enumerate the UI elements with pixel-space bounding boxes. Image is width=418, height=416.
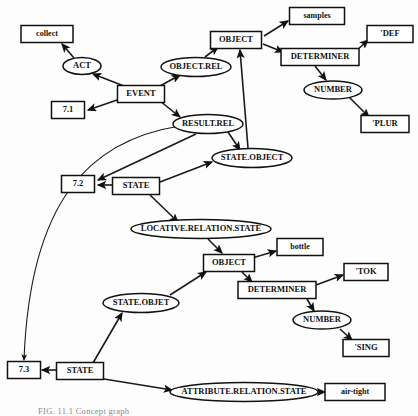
node-label-n73: 7.3 [19,364,30,374]
node-label-event: EVENT [126,88,156,98]
edge-state_bot-to-attribute [104,379,172,390]
node-def: 'DEF [367,26,413,43]
edge-state_mid-to-locative [150,195,178,222]
edge-number_top-to-plur [349,97,369,117]
node-label-n72: 7.2 [73,178,84,188]
edge-locative-to-object_bot [208,239,222,253]
node-event: EVENT [118,86,165,103]
node-label-tok: 'TOK [355,266,376,276]
node-label-samples: samples [303,11,330,20]
node-bottle: bottle [277,239,323,256]
node-label-plur: 'PLUR [372,118,398,128]
edge-act-to-collect [62,44,74,58]
nodes-layer: collectACTEVENT7.1OBJECT.RELOBJECTsample… [8,8,414,402]
node-label-state_objet: STATE.OBJET [113,297,170,307]
node-locative: LOCATIVE.RELATION.STATE [131,220,271,239]
node-label-object_rel: OBJECT.REL [170,61,223,71]
node-label-bottle: bottle [290,242,310,251]
edge-number_bot-to-sing [340,329,352,340]
node-n71: 7.1 [52,102,85,119]
node-determiner_bot: DETERMINER [238,282,316,299]
node-label-state_bot: STATE [67,365,94,375]
node-n72: 7.2 [62,176,95,193]
edge-event-to-act [93,74,124,86]
node-label-def: 'DEF [380,28,399,38]
node-object_rel: OBJECT.REL [161,58,231,77]
node-plur: 'PLUR [361,116,409,133]
edge-result_rel-to-n73 [24,126,180,360]
edge-state_bot-to-state_objet [93,313,122,363]
node-label-airtight: air-tight [341,387,369,396]
edge-state_object_1-to-object_top [240,50,248,148]
edge-object_bot-to-determiner_bot [242,272,252,282]
node-determiner_top: DETERMINER [281,49,359,66]
node-act: ACT [63,58,101,75]
node-tok: 'TOK [344,264,388,281]
edge-object_top-to-determiner_top [263,44,283,52]
node-label-object_bot: OBJECT [212,257,246,267]
node-label-sing: 'SING [354,342,378,352]
edge-event-to-result_rel [160,101,180,117]
node-state_object_1: STATE.OBJECT [212,149,292,168]
edge-determiner_bot-to-number_bot [307,299,314,311]
node-label-result_rel: RESULT.REL [182,118,235,128]
edge-object_bot-to-bottle [252,251,276,258]
node-label-attribute: ATTRIBUTE.RELATION.STATE [181,386,306,396]
node-label-determiner_bot: DETERMINER [248,284,307,294]
edge-object_top-to-samples [264,21,288,36]
node-label-act: ACT [73,60,91,70]
node-state_mid: STATE [113,178,160,195]
edge-event-to-n71 [88,99,120,110]
node-samples: samples [290,8,345,25]
edge-determiner_top-to-number_top [315,66,326,80]
edge-event-to-object_rel [160,75,180,86]
edge-state_objet-to-object_bot [170,272,206,295]
edge-determiner_bot-to-tok [316,275,343,285]
node-object_top: OBJECT [211,32,262,49]
node-label-determiner_top: DETERMINER [291,51,350,61]
node-collect: collect [21,26,73,43]
node-label-collect: collect [36,29,58,38]
node-label-number_bot: NUMBER [303,314,342,324]
figure-caption: FIG. 11.1 Concept graph [38,406,129,416]
node-label-object_top: OBJECT [219,34,253,44]
node-label-state_mid: STATE [123,180,150,190]
edge-state_mid-to-state_object_1 [160,162,212,182]
node-label-state_object_1: STATE.OBJECT [221,152,284,162]
node-number_top: NUMBER [304,81,362,99]
node-number_bot: NUMBER [293,311,351,329]
node-object_bot: OBJECT [204,255,255,272]
node-result_rel: RESULT.REL [173,115,243,134]
node-label-locative: LOCATIVE.RELATION.STATE [141,223,262,233]
node-sing: 'SING [343,340,389,357]
node-label-number_top: NUMBER [314,84,353,94]
node-airtight: air-tight [325,384,385,401]
node-n73: 7.3 [8,362,41,379]
edge-result_rel-to-state_object_1 [228,132,240,150]
node-state_bot: STATE [57,363,104,380]
node-state_objet: STATE.OBJET [103,294,179,313]
node-label-n71: 7.1 [63,104,74,114]
node-attribute: ATTRIBUTE.RELATION.STATE [170,383,318,402]
